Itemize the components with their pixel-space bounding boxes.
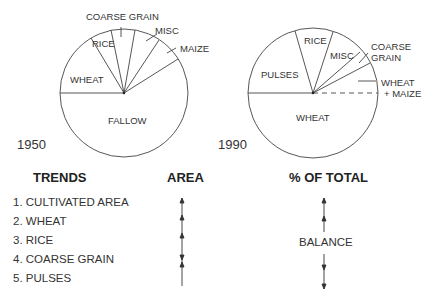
arrow-up-icon bbox=[180, 233, 184, 238]
trend-item-wheat: 2. WHEAT bbox=[13, 215, 66, 227]
arrow-up-icon bbox=[322, 216, 326, 221]
label-fallow: FALLOW bbox=[108, 115, 147, 126]
arrow-down-icon bbox=[322, 284, 326, 289]
pie-1950-divider bbox=[124, 59, 178, 93]
label-pulses: PULSES bbox=[261, 69, 299, 80]
leader-coarse-grain bbox=[359, 53, 368, 63]
trend-item-cultivated-area: 1. CULTIVATED AREA bbox=[13, 196, 129, 208]
trend-item-pulses: 5. PULSES bbox=[13, 272, 71, 284]
pie-1950-divider bbox=[124, 40, 159, 93]
label-misc: MISC bbox=[155, 25, 179, 36]
year-1990: 1990 bbox=[218, 137, 247, 152]
area-arrows bbox=[180, 198, 184, 286]
label-grain: GRAIN bbox=[371, 52, 401, 63]
pct-of-total-heading: % OF TOTAL bbox=[289, 170, 368, 185]
arrow-down-icon bbox=[322, 265, 326, 270]
trend-item-rice: 3. RICE bbox=[13, 234, 53, 246]
pie-1990-center bbox=[312, 92, 315, 95]
label-wheat-plus: WHEAT bbox=[381, 77, 415, 88]
label-wheat: WHEAT bbox=[70, 74, 104, 85]
year-1950: 1950 bbox=[17, 137, 46, 152]
label-rice: RICE bbox=[304, 35, 327, 46]
pie-1950-center bbox=[123, 92, 126, 95]
trend-item-coarse-grain: 4. COARSE GRAIN bbox=[13, 253, 114, 265]
label-coarse: COARSE bbox=[371, 41, 411, 52]
area-heading: AREA bbox=[167, 170, 204, 185]
trends-heading: TRENDS bbox=[33, 170, 86, 185]
label-rice: RICE bbox=[92, 38, 115, 49]
label-plus-maize: + MAIZE bbox=[384, 88, 421, 99]
label-misc: MISC bbox=[330, 50, 354, 61]
arrow-up-icon bbox=[322, 198, 326, 203]
label-maize: MAIZE bbox=[180, 43, 209, 54]
arrow-up-icon bbox=[180, 215, 184, 220]
balance-label: BALANCE bbox=[299, 236, 353, 248]
arrow-down-icon bbox=[180, 255, 184, 260]
pie-1950-divider bbox=[124, 30, 135, 93]
arrow-up-icon bbox=[180, 262, 184, 267]
leader-maize bbox=[167, 48, 176, 53]
label-wheat: WHEAT bbox=[296, 112, 330, 123]
arrow-up-icon bbox=[180, 198, 184, 203]
label-coarse-grain: COARSE GRAIN bbox=[86, 11, 159, 22]
